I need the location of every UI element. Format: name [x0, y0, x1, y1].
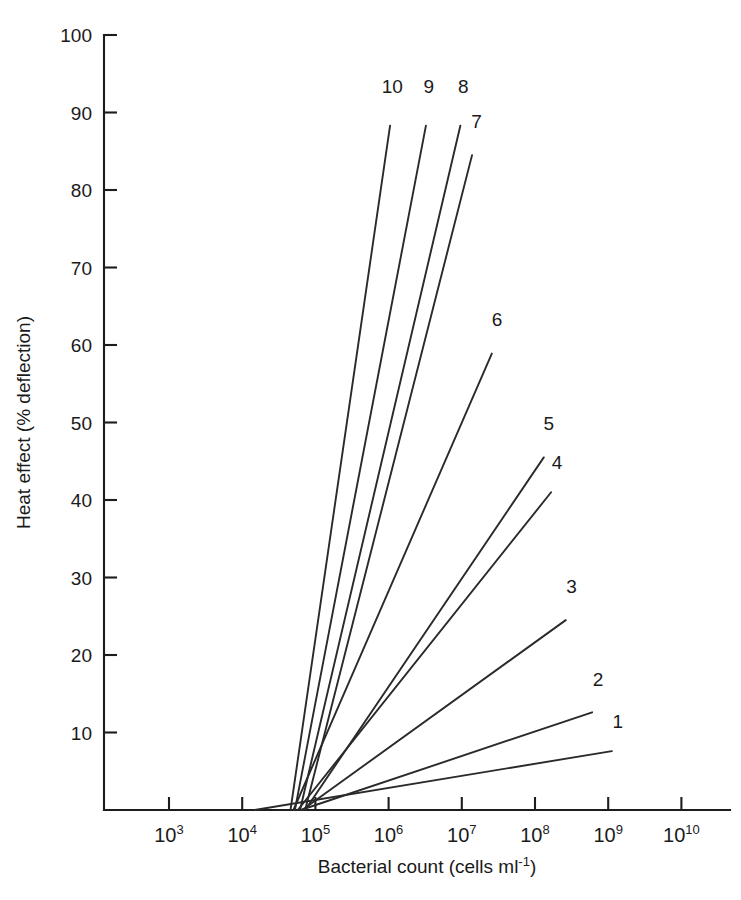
x-tick-label-1e8: 108: [520, 822, 549, 846]
series-label-4: 4: [552, 452, 563, 473]
x-tick-label-1e3: 103: [154, 822, 183, 846]
svg-text:105: 105: [301, 822, 330, 846]
y-axis-title: Heat effect (% deflection): [13, 316, 34, 529]
x-tick-label-1e5: 105: [301, 822, 330, 846]
data-line-9: [295, 126, 426, 810]
y-tick-label-20: 20: [71, 645, 92, 666]
axes: [104, 35, 730, 810]
series-label-8: 8: [458, 76, 469, 97]
y-axis-tick-labels: 102030405060708090100: [60, 25, 92, 744]
x-tick-label-1e6: 106: [374, 822, 403, 846]
series-label-5: 5: [544, 413, 555, 434]
series-label-7: 7: [471, 111, 482, 132]
data-line-4: [298, 492, 551, 810]
series-labels: 10987654321: [382, 76, 623, 732]
svg-text:104: 104: [227, 822, 256, 846]
axis-titles: Bacterial count (cells ml-1)Heat effect …: [13, 316, 536, 877]
axis-ticks: [104, 35, 681, 810]
data-line-7: [305, 155, 472, 810]
series-label-9: 9: [424, 76, 435, 97]
y-tick-label-60: 60: [71, 335, 92, 356]
svg-text:107: 107: [447, 822, 476, 846]
svg-text:106: 106: [374, 822, 403, 846]
y-tick-label-10: 10: [71, 723, 92, 744]
y-tick-label-100: 100: [60, 25, 92, 46]
svg-text:1010: 1010: [663, 822, 700, 846]
x-axis-tick-labels: 1031041051061071081091010: [154, 822, 700, 846]
x-tick-label-1e4: 104: [227, 822, 256, 846]
y-tick-label-50: 50: [71, 413, 92, 434]
series-label-10: 10: [382, 76, 403, 97]
x-tick-label-1e10: 1010: [663, 822, 700, 846]
chart-plot-area: 1031041051061071081091010 10203040506070…: [0, 0, 741, 900]
svg-text:103: 103: [154, 822, 183, 846]
series-label-1: 1: [612, 711, 623, 732]
x-axis-title: Bacterial count (cells ml-1): [318, 854, 537, 877]
series-label-6: 6: [492, 309, 503, 330]
series-label-3: 3: [566, 576, 577, 597]
chart-figure: 1031041051061071081091010 10203040506070…: [0, 0, 741, 900]
y-tick-label-40: 40: [71, 490, 92, 511]
y-tick-label-80: 80: [71, 180, 92, 201]
svg-text:108: 108: [520, 822, 549, 846]
y-tick-label-70: 70: [71, 258, 92, 279]
svg-text:109: 109: [593, 822, 622, 846]
series-label-2: 2: [593, 669, 604, 690]
data-line-3: [302, 620, 566, 810]
y-tick-label-90: 90: [71, 103, 92, 124]
x-tick-label-1e9: 109: [593, 822, 622, 846]
y-tick-label-30: 30: [71, 568, 92, 589]
x-tick-label-1e7: 107: [447, 822, 476, 846]
